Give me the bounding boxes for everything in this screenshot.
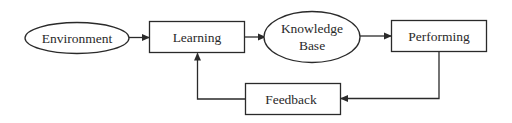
feedback-label: Feedback <box>265 92 317 107</box>
node-environment: Environment <box>25 23 129 54</box>
node-learning: Learning <box>150 22 245 53</box>
node-feedback: Feedback <box>246 84 341 115</box>
learning-label: Learning <box>173 30 222 45</box>
edge-feedback-to-learning <box>198 54 246 100</box>
knowledge-base-label-line2: Base <box>299 38 325 53</box>
node-performing: Performing <box>392 21 487 52</box>
performing-label: Performing <box>408 29 470 44</box>
knowledge-base-label-line1: Knowledge <box>281 21 343 36</box>
learning-cycle-diagram: Environment Learning Knowledge Base Perf… <box>0 0 512 123</box>
node-knowledge-base: Knowledge Base <box>264 12 360 63</box>
environment-label: Environment <box>42 31 113 46</box>
edge-performing-to-feedback <box>341 52 439 99</box>
